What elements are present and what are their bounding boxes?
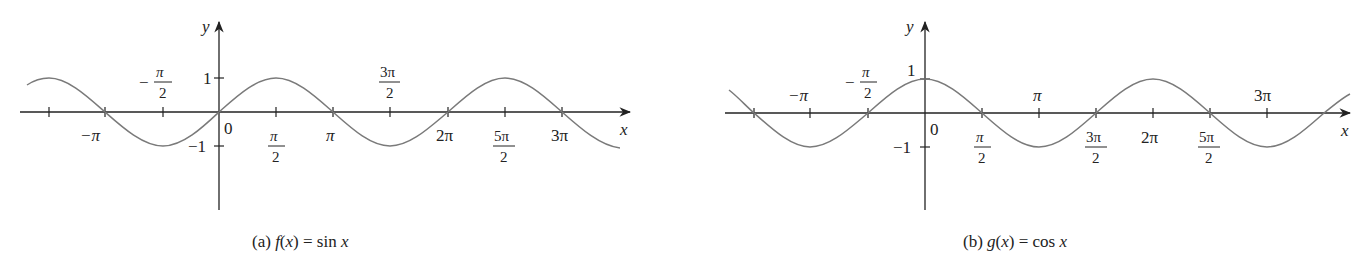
svg-text:2: 2 (159, 85, 167, 101)
tick-label-half-pi-a: π 2 (268, 128, 285, 165)
tick-label-pi-b: π (1033, 86, 1042, 105)
tick-label-3pi-a: 3π (551, 126, 569, 145)
tick-label-neg-half-pi-a: − π 2 (139, 64, 172, 101)
svg-text:−: − (845, 73, 855, 92)
svg-text:2: 2 (978, 150, 986, 166)
tick-label-neg-pi-a: −π (80, 126, 100, 145)
svg-text:π: π (976, 129, 984, 145)
tick-label-3half-pi-b: 3π 2 (1085, 129, 1107, 166)
svg-text:2: 2 (864, 85, 872, 101)
tick-label-2pi-a: 2π (436, 126, 454, 145)
x-axis-label-a: x (619, 120, 628, 139)
tick-label-neg-pi-b: −π (788, 86, 808, 105)
svg-text:π: π (862, 64, 870, 80)
svg-text:2: 2 (500, 149, 508, 165)
svg-text:2: 2 (386, 85, 394, 101)
caption-b: (b) g(x) = cos x (963, 232, 1067, 251)
y-label-1-a: 1 (203, 69, 212, 88)
svg-text:3π: 3π (380, 64, 396, 80)
y-axis-label-b: y (904, 17, 914, 36)
tick-label-5half-pi-a: 5π 2 (493, 128, 515, 165)
svg-text:2: 2 (1205, 150, 1213, 166)
y-axis-label-a: y (200, 17, 210, 36)
svg-text:3π: 3π (1086, 129, 1102, 145)
tick-label-neg-half-pi-b: − π 2 (845, 64, 877, 101)
svg-text:2: 2 (1092, 150, 1100, 166)
tick-label-5half-pi-b: 5π 2 (1198, 129, 1220, 166)
tick-label-pi-a: π (326, 126, 335, 145)
y-label-neg1-b: −1 (893, 138, 911, 157)
tick-label-3pi-b: 3π (1254, 86, 1272, 105)
figure: y x 0 1 −1 −π − π 2 π 2 π 3π 2 2π 5π 2 (0, 0, 1371, 269)
svg-text:π: π (270, 128, 278, 144)
sin-curve (27, 78, 620, 148)
svg-text:5π: 5π (1199, 129, 1215, 145)
svg-text:2: 2 (272, 149, 280, 165)
y-label-1-b: 1 (907, 61, 916, 80)
tick-label-2pi-b: 2π (1141, 128, 1159, 147)
graph-a-sin: y x 0 1 −1 −π − π 2 π 2 π 3π 2 2π 5π 2 (20, 17, 630, 251)
svg-text:5π: 5π (494, 128, 510, 144)
origin-label-b: 0 (930, 120, 939, 139)
svg-text:π: π (156, 64, 164, 80)
svg-text:−: − (139, 73, 149, 92)
x-axis-label-b: x (1340, 121, 1349, 140)
caption-a: (a) f(x) = sin x (252, 232, 349, 251)
y-label-neg1-a: −1 (188, 137, 206, 156)
graph-b-cos: y x 0 1 −1 −π − π 2 π 2 π 3π 2 2π 5π 2 (725, 17, 1350, 251)
origin-label-a: 0 (224, 119, 233, 138)
tick-label-3half-pi-a: 3π 2 (379, 64, 400, 101)
tick-label-half-pi-b: π 2 (974, 129, 991, 166)
